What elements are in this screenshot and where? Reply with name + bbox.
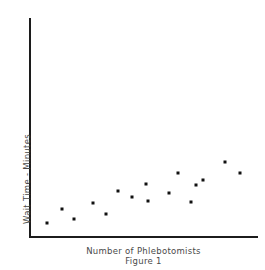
data-point xyxy=(190,201,193,204)
data-point xyxy=(168,192,171,195)
data-point xyxy=(46,222,49,225)
x-axis-label: Number of Phlebotomists xyxy=(29,246,258,256)
y-axis-label: Wait Time - Minutes xyxy=(22,84,36,224)
figure-caption: Figure 1 xyxy=(29,256,258,266)
data-point xyxy=(131,196,134,199)
data-point xyxy=(117,190,120,193)
data-point xyxy=(195,184,198,187)
data-point xyxy=(177,172,180,175)
x-axis-line xyxy=(29,236,258,238)
data-point xyxy=(105,213,108,216)
data-point xyxy=(73,218,76,221)
plot-area xyxy=(29,18,258,238)
data-point xyxy=(239,172,242,175)
scatter-plot-figure: Wait Time - Minutes Number of Phlebotomi… xyxy=(0,0,265,270)
data-point xyxy=(145,183,148,186)
data-point xyxy=(202,179,205,182)
data-point xyxy=(224,161,227,164)
data-point xyxy=(92,202,95,205)
data-point xyxy=(147,200,150,203)
data-point xyxy=(61,208,64,211)
